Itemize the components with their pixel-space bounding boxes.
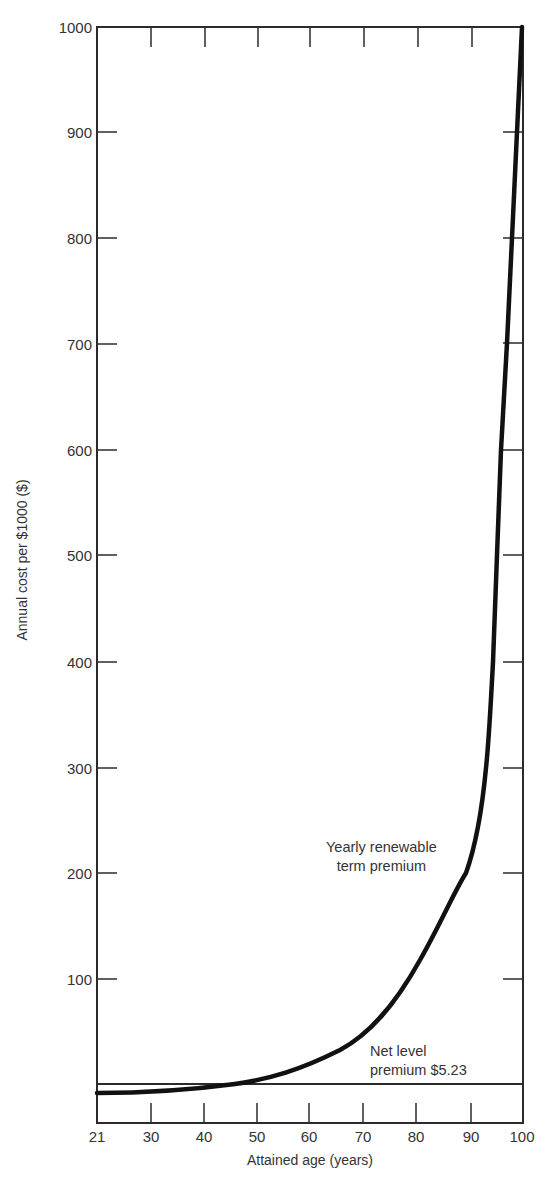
x-tick-90: 90 bbox=[463, 1128, 480, 1145]
x-axis-title: Attained age (years) bbox=[247, 1152, 373, 1168]
x-tick-40: 40 bbox=[196, 1128, 213, 1145]
net-label-line2: premium $5.23 bbox=[370, 1061, 467, 1080]
x-tick-21: 21 bbox=[89, 1128, 106, 1145]
top-ticks bbox=[151, 27, 472, 47]
net-level-premium-label: Net level premium $5.23 bbox=[370, 1042, 467, 1080]
plot-frame bbox=[97, 27, 523, 1123]
y-tick-800: 800 bbox=[32, 230, 92, 247]
y-tick-100: 100 bbox=[32, 971, 92, 988]
x-tick-30: 30 bbox=[143, 1128, 160, 1145]
y-tick-900: 900 bbox=[32, 124, 92, 141]
y-tick-500: 500 bbox=[32, 547, 92, 564]
x-tick-70: 70 bbox=[355, 1128, 372, 1145]
x-tick-60: 60 bbox=[301, 1128, 318, 1145]
chart-plot-area bbox=[0, 0, 548, 1177]
y-tick-1000: 1000 bbox=[32, 19, 92, 36]
x-tick-100: 100 bbox=[509, 1128, 534, 1145]
y-tick-300: 300 bbox=[32, 760, 92, 777]
y-tick-200: 200 bbox=[32, 865, 92, 882]
yrt-label-line1: Yearly renewable bbox=[326, 838, 437, 857]
yrt-label-line2: term premium bbox=[326, 857, 437, 876]
left-ticks bbox=[97, 132, 117, 979]
yearly-renewable-term-label: Yearly renewable term premium bbox=[326, 838, 437, 876]
x-tick-50: 50 bbox=[249, 1128, 266, 1145]
y-tick-700: 700 bbox=[32, 336, 92, 353]
x-tick-80: 80 bbox=[408, 1128, 425, 1145]
yearly-renewable-term-curve bbox=[97, 27, 522, 1093]
y-axis-title: Annual cost per $1000 ($) bbox=[14, 479, 30, 640]
bottom-ticks bbox=[151, 1103, 471, 1123]
net-label-line1: Net level bbox=[370, 1042, 467, 1061]
y-tick-600: 600 bbox=[32, 442, 92, 459]
y-tick-400: 400 bbox=[32, 654, 92, 671]
